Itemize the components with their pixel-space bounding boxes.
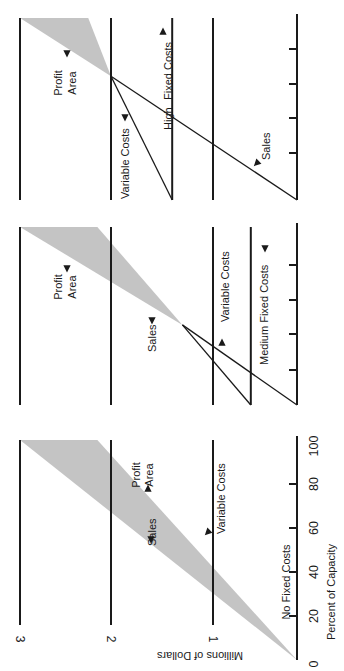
variable-costs-arrow [218,339,225,346]
profit-area-layer [20,18,297,660]
label-layer: 020406080100Percent of CapacityNo Fixed … [13,28,337,668]
x-tick-label: 60 [307,521,321,535]
y-tick-label: 1 [206,636,220,643]
x-tick-label: 0 [307,660,321,667]
profit-area [20,18,111,76]
panel-label-high: High [162,107,174,130]
sales-arrow [148,317,155,324]
profit-label: Profit [130,462,142,488]
sales-label: Sales [260,132,272,160]
panel-label-medium-fixed-costs: Medium Fixed Costs [258,264,270,365]
area-label: Area [66,275,78,299]
area-label: Area [66,71,78,95]
x-tick-label: 20 [307,609,321,623]
variable-costs-arrow [121,114,128,121]
x-tick-label: 80 [307,477,321,491]
profit-area [20,440,297,660]
sales-label: Sales [146,518,158,546]
high-fixed-costs-arrow [159,28,166,35]
profit-label: Profit [52,274,64,300]
x-tick-label: 40 [307,565,321,579]
panel-label-fixed-costs: Fixed Costs [162,41,174,100]
variable-costs-arrow [202,528,212,538]
y-axis-title: Millions of Dollars [156,650,243,662]
variable-costs-label: Variable Costs [215,463,227,534]
profit-area [20,227,182,325]
profit-label: Profit [52,70,64,96]
y-tick-label: 3 [13,636,27,643]
x-axis-title: Percent of Capacity [325,544,337,640]
profit-area-arrow [63,265,70,272]
profit-area-arrow [63,50,70,57]
variable-costs-label: Variable Costs [219,251,231,322]
break-even-chart: 020406080100Percent of CapacityNo Fixed … [0,0,344,671]
x-tick-label: 100 [307,436,321,457]
variable-costs-label: Variable Costs [119,128,131,199]
panel-label-no-fixed-costs: No Fixed Costs [280,544,292,620]
area-label: Area [143,463,155,487]
medium-fixed-costs-arrow [261,245,268,252]
y-tick-label: 2 [104,636,118,643]
sales-label: Sales [146,324,158,352]
